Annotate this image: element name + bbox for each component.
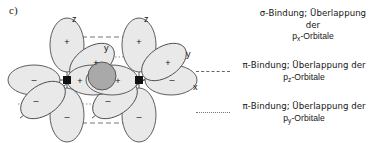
legend-line1-pi-py: π-Bindung; Überlappung der xyxy=(242,101,365,111)
axis-label-z-right: z xyxy=(144,14,149,24)
legend-line2-sigma-px: px-Orbitale xyxy=(252,31,374,43)
legend-entry-pi-pz: π-Bindung; Überlappung der pz-Orbitale xyxy=(196,60,374,83)
right-nucleus xyxy=(135,76,143,84)
sign-right-py-up: + xyxy=(165,58,170,68)
legend-orbital-sub-sigma: x xyxy=(297,35,300,42)
legend-orbital-sub-piy: y xyxy=(288,117,291,124)
orbital-diagram: + – – + + – + – + – + – z z x y y xyxy=(0,0,205,143)
sign-right-pz-up: + xyxy=(136,37,141,47)
sign-right-pz-down: – xyxy=(136,112,141,122)
orbital-diagram-svg: + – – + + – + – + – + – z z x y y xyxy=(0,0,205,143)
legend-text-sigma-px: σ-Bindung; Überlappung der px-Orbitale xyxy=(252,8,374,43)
sign-right-py-down: – xyxy=(105,96,110,106)
sign-left-pz-down: – xyxy=(64,112,69,122)
legend: σ-Bindung; Überlappung der px-Orbitale π… xyxy=(196,0,374,143)
legend-orbital-suffix-piz: -Orbitale xyxy=(291,72,324,82)
legend-text-pi-pz: π-Bindung; Überlappung der pz-Orbitale xyxy=(234,60,374,83)
legend-line2-pi-py: py-Orbitale xyxy=(234,113,374,125)
sigma-overlap-region xyxy=(88,62,116,90)
left-nucleus xyxy=(63,76,71,84)
sign-left-pz-up: + xyxy=(64,37,69,47)
axis-label-y-right: y xyxy=(186,49,191,59)
legend-orbital-sub-piz: z xyxy=(288,76,291,83)
legend-marker-pi-pz xyxy=(196,66,230,77)
sign-left-py-down: – xyxy=(33,96,38,106)
axis-label-y-left: y xyxy=(104,43,109,53)
legend-marker-pi-py xyxy=(196,107,230,118)
sign-left-py-up: + xyxy=(93,58,98,68)
legend-text-pi-py: π-Bindung; Überlappung der py-Orbitale xyxy=(234,101,374,124)
legend-orbital-suffix-sigma: -Orbitale xyxy=(300,31,333,41)
sign-right-px-left: + xyxy=(115,76,120,86)
legend-orbital-suffix-piy: -Orbitale xyxy=(291,113,324,123)
sign-right-px-right: – xyxy=(169,75,174,85)
orbital-overlap-figure: c) xyxy=(0,0,374,143)
legend-line2-pi-pz: pz-Orbitale xyxy=(234,72,374,84)
legend-entry-sigma-px: σ-Bindung; Überlappung der px-Orbitale xyxy=(214,8,374,43)
legend-line1-pi-pz: π-Bindung; Überlappung der xyxy=(242,60,365,70)
legend-line1-sigma-px: σ-Bindung; Überlappung der xyxy=(260,8,366,30)
legend-entry-pi-py: π-Bindung; Überlappung der py-Orbitale xyxy=(196,101,374,124)
axis-label-z-left: z xyxy=(72,14,77,24)
sign-left-px-right: + xyxy=(77,76,82,86)
sign-left-px-left: – xyxy=(31,75,36,85)
